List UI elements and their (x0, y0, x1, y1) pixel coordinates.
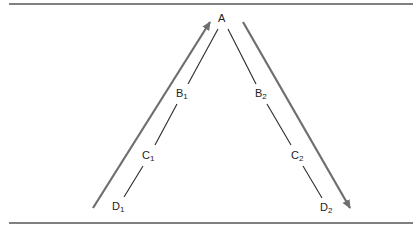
node-label-c1: C1 (142, 150, 154, 163)
node-d2-subscript: 2 (328, 206, 332, 215)
node-c1-text: C (142, 149, 150, 161)
node-d1-text: D (112, 200, 120, 212)
node-label-c2: C2 (291, 150, 303, 163)
descending-arrow-icon (243, 22, 350, 208)
edge-b2-c2 (267, 104, 291, 145)
node-c1-subscript: 1 (150, 154, 154, 163)
node-label-b1: B1 (176, 88, 188, 101)
diagram-graphics (0, 0, 413, 229)
node-c2-text: C (291, 149, 299, 161)
ascending-arrow-icon (93, 22, 210, 208)
edge-b1-c1 (155, 104, 177, 145)
node-label-b2: B2 (255, 88, 267, 101)
node-label-d2: D2 (320, 202, 332, 215)
node-b1-subscript: 1 (183, 92, 187, 101)
node-d2-text: D (320, 201, 328, 213)
node-a-text: A (218, 12, 225, 24)
edge-c2-d2 (303, 166, 322, 198)
node-b2-subscript: 2 (262, 92, 266, 101)
node-label-a: A (218, 13, 225, 26)
edge-a-b1 (188, 29, 218, 84)
node-d1-subscript: 1 (120, 205, 124, 214)
diagram-canvas: A B1 C1 D1 B2 C2 D2 (0, 0, 413, 229)
edge-c1-d1 (124, 166, 143, 197)
node-c2-subscript: 2 (299, 154, 303, 163)
node-label-d1: D1 (112, 201, 124, 214)
